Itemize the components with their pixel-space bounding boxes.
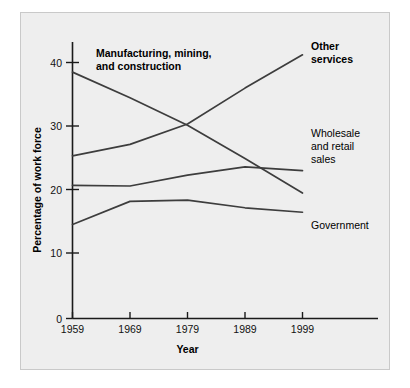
annotation-wholesale-line3: sales — [311, 153, 336, 165]
annotation-wholesale-line1: Wholesale — [311, 127, 360, 139]
annotation-manufacturing-line1: Manufacturing, mining, — [96, 47, 212, 59]
x-tick-label-1979: 1979 — [176, 323, 200, 335]
chart-figure: 40 30 20 10 0 1959 1969 1979 1989 1999 Y… — [0, 0, 410, 388]
x-tick-label-1959: 1959 — [61, 323, 85, 335]
annotation-manufacturing-line2: and construction — [96, 60, 181, 72]
annotation-wholesale-line2: and retail — [311, 140, 354, 152]
series-line-government — [73, 200, 303, 224]
x-tick-label-1969: 1969 — [118, 323, 142, 335]
y-axis-title: Percentage of work force — [31, 127, 43, 253]
x-axis-title: Year — [176, 343, 198, 355]
annotation-government-line1: Government — [311, 219, 369, 231]
x-tick-label-1999: 1999 — [291, 323, 315, 335]
y-tick-label-20: 20 — [50, 184, 62, 196]
x-tick-label-1989: 1989 — [233, 323, 257, 335]
y-tick-label-30: 30 — [50, 120, 62, 132]
series-line-wholesale-retail-sales — [73, 167, 303, 186]
line-chart: 40 30 20 10 0 1959 1969 1979 1989 1999 Y… — [0, 0, 410, 388]
annotation-other-services-line2: services — [311, 53, 353, 65]
y-tick-label-40: 40 — [50, 57, 62, 69]
annotation-other-services-line1: Other — [311, 40, 339, 52]
y-tick-label-10: 10 — [50, 247, 62, 259]
